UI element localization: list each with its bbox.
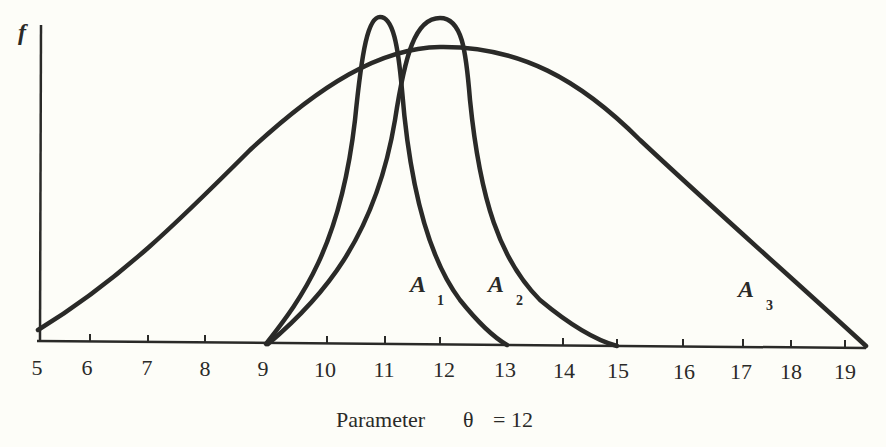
y-axis-label: f	[18, 19, 28, 45]
sampling-distribution-chart: f 5 6 7 8 9 10 11 12 13 14 15 16 17 18 1…	[0, 0, 886, 447]
svg-text:2: 2	[516, 293, 523, 308]
svg-text:6: 6	[82, 355, 93, 380]
svg-text:14: 14	[553, 358, 575, 383]
y-axis	[40, 25, 41, 341]
svg-text:12: 12	[433, 357, 455, 382]
x-axis-caption: Parameter θ = 12	[336, 407, 533, 432]
svg-text:7: 7	[142, 355, 153, 380]
svg-text:A: A	[736, 276, 754, 302]
svg-text:8: 8	[200, 356, 211, 381]
svg-text:13: 13	[494, 357, 516, 382]
svg-text:10: 10	[314, 357, 336, 382]
x-axis	[37, 341, 866, 348]
svg-text:18: 18	[780, 359, 802, 384]
svg-text:1: 1	[437, 293, 444, 308]
x-tick-labels: 5 6 7 8 9 10 11 12 13 14 15 16 17 18 19	[32, 355, 857, 384]
label-a1: A 1	[408, 271, 444, 308]
label-a2: A 2	[486, 271, 523, 308]
svg-text:11: 11	[373, 357, 394, 382]
svg-text:Parameter: Parameter	[336, 407, 426, 432]
label-a3: A 3	[736, 276, 773, 313]
svg-text:3: 3	[766, 298, 773, 313]
svg-text:= 12: = 12	[493, 407, 533, 432]
curve-a1	[266, 17, 507, 345]
svg-text:A: A	[486, 271, 504, 297]
svg-text:15: 15	[607, 358, 629, 383]
svg-text:9: 9	[258, 356, 269, 381]
svg-text:A: A	[408, 271, 426, 297]
svg-text:19: 19	[834, 359, 856, 384]
svg-text:17: 17	[730, 359, 752, 384]
svg-text:16: 16	[673, 359, 695, 384]
svg-text:5: 5	[32, 355, 43, 380]
svg-text:θ: θ	[463, 407, 474, 432]
